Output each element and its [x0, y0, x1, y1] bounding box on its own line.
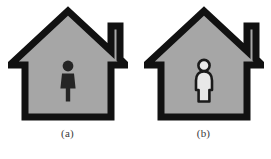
figure-panel-b: (b)	[136, 0, 271, 159]
house-with-male-occupant	[8, 6, 128, 122]
house-with-female-occupant	[144, 6, 264, 122]
female-person-icon	[196, 60, 212, 102]
house-icon	[144, 6, 264, 122]
figure-panel-a: (a)	[0, 0, 135, 159]
panel-a-caption: (a)	[0, 126, 135, 140]
figure-root: (a) (b)	[0, 0, 271, 159]
panel-b-caption: (b)	[136, 126, 271, 140]
female-head	[198, 60, 209, 71]
female-body	[196, 72, 212, 102]
male-head	[62, 61, 73, 72]
house-icon	[8, 6, 128, 122]
